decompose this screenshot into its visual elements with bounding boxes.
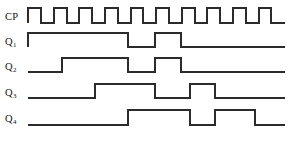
waveform-canvas bbox=[0, 0, 292, 147]
signal-label-q4: Q4 bbox=[5, 114, 17, 125]
signal-label-q2-subscript: 2 bbox=[13, 66, 17, 74]
signal-label-q3: Q3 bbox=[5, 88, 17, 99]
waveform-q4 bbox=[28, 110, 285, 125]
signal-label-q2-base: Q bbox=[5, 61, 13, 72]
waveform-q1 bbox=[28, 33, 285, 47]
signal-label-q2: Q2 bbox=[5, 62, 17, 73]
signal-label-q4-subscript: 4 bbox=[13, 118, 17, 126]
waveform-cp bbox=[28, 8, 285, 23]
signal-label-cp: CP bbox=[5, 12, 18, 23]
signal-label-q3-subscript: 3 bbox=[13, 92, 17, 100]
signal-label-q4-base: Q bbox=[5, 113, 13, 124]
timing-diagram: CP Q1 Q2 Q3 Q4 bbox=[0, 0, 292, 147]
waveform-q2 bbox=[28, 58, 285, 72]
signal-label-q3-base: Q bbox=[5, 87, 13, 98]
signal-label-q1-subscript: 1 bbox=[13, 41, 17, 49]
waveform-q3 bbox=[28, 84, 285, 98]
signal-label-q1-base: Q bbox=[5, 36, 13, 47]
signal-label-cp-text: CP bbox=[5, 11, 18, 22]
signal-label-q1: Q1 bbox=[5, 37, 17, 48]
